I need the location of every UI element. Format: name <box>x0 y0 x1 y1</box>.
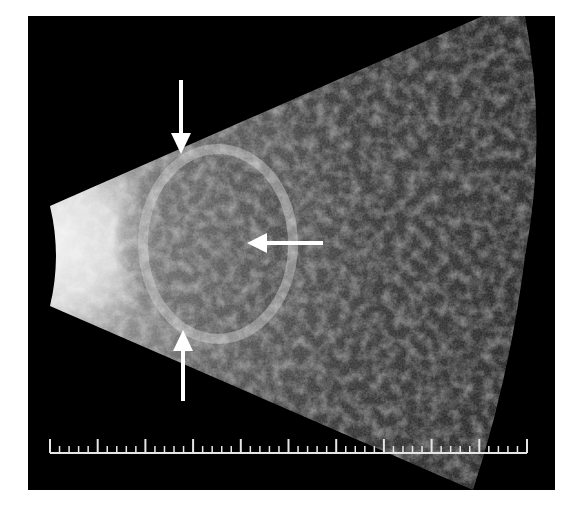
ultrasound-scan <box>28 16 555 490</box>
arrow-left-icon <box>247 233 325 253</box>
scan-sector <box>28 16 555 490</box>
arrow-up-icon <box>173 330 193 402</box>
arrow-down-icon <box>171 80 191 156</box>
ultrasound-frame <box>28 16 555 490</box>
